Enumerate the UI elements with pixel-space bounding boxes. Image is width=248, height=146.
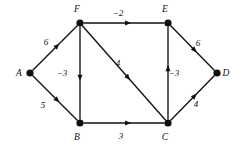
edge-weight-B-C: 3: [118, 131, 124, 141]
node-label-D: D: [222, 68, 230, 78]
graph-node-F: [76, 19, 83, 26]
graph-edge-C-D: [171, 76, 215, 121]
node-label-C: C: [162, 132, 169, 142]
directed-graph-figure: ABCDEF 65−3−243−346: [0, 0, 248, 146]
graph-node-D: [213, 69, 220, 76]
node-label-B: B: [74, 132, 80, 142]
graph-node-C: [164, 119, 171, 126]
node-label-A: A: [15, 68, 22, 78]
edge-weight-F-E: −2: [113, 8, 124, 18]
graph-node-A: [26, 69, 33, 76]
arrowhead-F-E: [125, 21, 131, 26]
graph-node-B: [76, 119, 83, 126]
node-label-F: F: [73, 4, 80, 14]
edge-weight-F-B: −3: [57, 68, 68, 78]
edge-weight-labels-layer: 65−3−243−346: [41, 8, 201, 141]
graph-node-E: [164, 19, 171, 26]
arrowhead-B-C: [125, 121, 131, 126]
edge-weight-C-D: 4: [194, 99, 199, 109]
edge-weight-F-C: 4: [116, 58, 121, 68]
node-label-E: E: [161, 4, 168, 14]
graph-edge-A-B: [33, 76, 78, 121]
graph-canvas: ABCDEF 65−3−243−346: [0, 0, 248, 146]
arrowhead-F-B: [78, 75, 83, 81]
graph-edge-A-F: [33, 26, 78, 71]
node-labels-layer: ABCDEF: [15, 4, 229, 142]
edge-weight-A-B: 5: [41, 100, 46, 110]
graph-edge-E-D: [171, 26, 215, 71]
graph-edge-F-C: [82, 26, 165, 121]
edge-weight-A-F: 6: [44, 37, 49, 47]
edge-weight-C-E: −3: [169, 68, 180, 78]
edge-weight-E-D: 6: [196, 38, 201, 48]
